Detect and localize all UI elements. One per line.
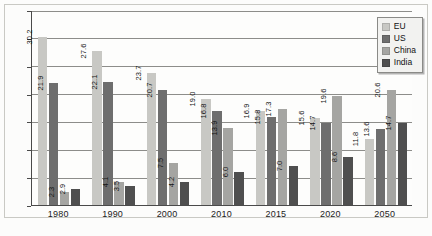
bar-group: 30.221.92.32.9 [38,11,81,205]
bar-eu-2050[interactable]: 11.8 [365,11,375,205]
bar-value-label: 19.6 [328,87,337,102]
bar-value-label: 13.9 [219,119,228,134]
bar-rect[interactable]: 15.6 [310,118,320,205]
plot-area: 30.221.92.32.927.622.14.13.523.720.77.54… [31,11,412,206]
bar-value-label: 3.5 [121,179,130,190]
bar-rect[interactable]: 16.9 [256,111,266,205]
legend-swatch-icon [382,59,390,67]
bar-rect[interactable]: 11.8 [365,139,375,205]
bar-india-1980[interactable]: 2.9 [71,11,81,205]
bar-group: 27.622.14.13.5 [92,11,135,205]
bar-india-2015[interactable]: 7.0 [289,11,299,205]
bar-india-1990[interactable]: 3.5 [125,11,135,205]
bar-value-label: 21.9 [45,75,54,90]
bar-group: 16.915.817.37.0 [256,11,299,205]
legend-swatch-icon [382,35,390,43]
bar-value-label: 4.2 [176,175,185,186]
bar-china-1990[interactable]: 4.1 [114,11,124,205]
bar-rect[interactable]: 3.5 [125,186,135,206]
bar-value-label: 23.7 [143,64,152,79]
legend-label: EU [394,21,406,32]
bar-rect[interactable]: 4.2 [180,182,190,205]
x-tick-label-1990: 1990 [102,209,123,219]
bar-us-2000[interactable]: 20.7 [158,11,168,205]
bar-eu-2020[interactable]: 15.6 [310,11,320,205]
x-tick-label-2020: 2020 [320,209,341,219]
bar-value-label: 16.8 [208,103,217,118]
legend-label: China [394,45,416,56]
legend-swatch-icon [382,47,390,55]
bar-group: 15.614.719.68.6 [310,11,353,205]
legend-swatch-icon [382,23,390,31]
bar-us-2020[interactable]: 14.7 [321,11,331,205]
bar-rect[interactable]: 14.7 [398,123,408,205]
legend-label: US [394,33,406,44]
bar-eu-2000[interactable]: 23.7 [147,11,157,205]
bar-rect[interactable]: 13.6 [376,129,386,205]
bar-rect[interactable]: 14.7 [321,123,331,205]
bar-value-label: 7.5 [165,157,174,168]
legend-item-eu[interactable]: EU [382,21,416,32]
bar-china-2020[interactable]: 19.6 [332,11,342,205]
bar-india-2020[interactable]: 8.6 [343,11,353,205]
bar-value-label: 22.1 [99,73,108,88]
legend-item-us[interactable]: US [382,33,416,44]
legend-item-india[interactable]: India [382,57,416,68]
x-tick-label-2050: 2050 [374,209,395,219]
bar-india-2000[interactable]: 4.2 [180,11,190,205]
bars-layer: 30.221.92.32.927.622.14.13.523.720.77.54… [32,11,412,205]
bar-value-label: 13.6 [371,121,380,136]
legend-label: India [394,57,412,68]
bar-eu-1980[interactable]: 30.2 [38,11,48,205]
bar-rect[interactable]: 20.7 [158,90,168,205]
bar-value-label: 20.7 [154,81,163,96]
bar-value-label: 7.0 [284,160,293,171]
chart-legend: EUUSChinaIndia [377,17,423,73]
x-tick-label-2000: 2000 [157,209,178,219]
bar-rect[interactable]: 30.2 [38,37,48,205]
bar-rect[interactable]: 17.3 [278,109,288,205]
x-tick-label-1980: 1980 [48,209,69,219]
bar-value-label: 14.7 [393,115,402,130]
bar-rect[interactable]: 6.0 [234,172,244,205]
bar-value-label: 14.7 [317,115,326,130]
bar-value-label: 2.9 [67,182,76,193]
bar-value-label: 27.6 [88,43,97,58]
x-tick-label-2015: 2015 [266,209,287,219]
bar-rect[interactable]: 8.6 [343,157,353,205]
bar-rect[interactable]: 20.6 [387,90,397,205]
bar-us-1980[interactable]: 21.9 [49,11,59,205]
y-tick-mark [27,206,31,207]
bar-china-1980[interactable]: 2.3 [60,11,70,205]
bar-value-label: 6.0 [230,165,239,176]
bar-china-2015[interactable]: 17.3 [278,11,288,205]
bar-group: 23.720.77.54.2 [147,11,190,205]
bar-chart-figure: 0.05.010.015.020.025.030.035.0 30.221.92… [0,0,432,236]
bar-value-label: 17.3 [273,100,282,115]
x-tick-label-2010: 2010 [211,209,232,219]
bar-rect[interactable]: 2.9 [71,189,81,205]
bar-rect[interactable]: 7.0 [289,166,299,205]
bar-value-label: 30.2 [34,28,43,43]
bar-value-label: 8.6 [339,151,348,162]
bar-value-label: 20.6 [382,82,391,97]
bar-group: 19.016.813.96.0 [201,11,244,205]
legend-item-china[interactable]: China [382,45,416,56]
